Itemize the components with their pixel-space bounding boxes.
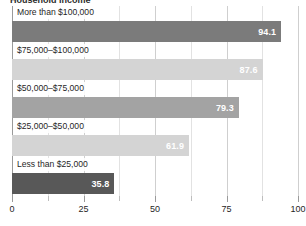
x-tick	[84, 196, 85, 202]
gridline-major	[298, 6, 299, 196]
x-tick-minor	[119, 196, 120, 201]
chart-title-text: Household income	[10, 0, 160, 5]
x-tick-minor	[262, 196, 263, 201]
category-label: $75,000–$100,000	[15, 44, 91, 57]
bar-row: More than $100,00094.1	[12, 6, 298, 44]
bar-row: $25,000–$50,00061.9	[12, 120, 298, 158]
x-tick	[227, 196, 228, 202]
bar: 87.6	[12, 59, 263, 80]
x-tick-label: 75	[221, 204, 231, 214]
bar-rows: More than $100,00094.1$75,000–$100,00087…	[12, 6, 298, 196]
category-label: More than $100,000	[15, 6, 96, 19]
bar-value-label: 87.6	[240, 65, 258, 75]
x-tick	[155, 196, 156, 202]
category-label: $50,000–$75,000	[15, 82, 86, 95]
x-tick-label: 50	[150, 204, 160, 214]
bar: 61.9	[12, 135, 189, 156]
bar-value-label: 94.1	[258, 27, 276, 37]
bar: 79.3	[12, 97, 239, 118]
x-tick-label: 0	[9, 204, 14, 214]
bar-row: $75,000–$100,00087.6	[12, 44, 298, 82]
bar: 35.8	[12, 173, 114, 194]
x-tick	[298, 196, 299, 202]
category-label: Less than $25,000	[15, 158, 90, 171]
bar-value-label: 79.3	[216, 103, 234, 113]
x-axis: 0255075100	[12, 196, 298, 226]
plot-area: More than $100,00094.1$75,000–$100,00087…	[12, 6, 298, 196]
bar-chart: Household income More than $100,00094.1$…	[0, 0, 306, 226]
bar-value-label: 61.9	[166, 141, 184, 151]
chart-title-truncated: Household income	[10, 0, 160, 5]
x-tick-minor	[48, 196, 49, 201]
bar: 94.1	[12, 21, 281, 42]
x-tick-label: 100	[290, 204, 305, 214]
x-tick-minor	[191, 196, 192, 201]
category-label: $25,000–$50,000	[15, 120, 86, 133]
x-tick	[12, 196, 13, 202]
x-tick-label: 25	[78, 204, 88, 214]
bar-row: $50,000–$75,00079.3	[12, 82, 298, 120]
bar-value-label: 35.8	[91, 179, 109, 189]
bar-row: Less than $25,00035.8	[12, 158, 298, 196]
